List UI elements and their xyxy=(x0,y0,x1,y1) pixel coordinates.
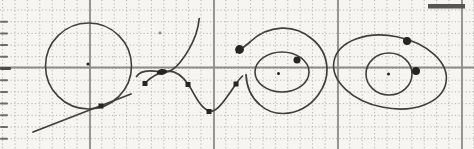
tangent-point-marker xyxy=(99,104,104,109)
figure-canvas xyxy=(0,0,474,149)
spiral-end-dot xyxy=(235,45,244,54)
large-circle-center-dot xyxy=(86,62,89,65)
scan-edge-dash xyxy=(0,56,8,58)
scan-edge-dash xyxy=(0,114,8,116)
inner-oval-center-dot xyxy=(277,72,280,75)
scan-edge-dash xyxy=(0,126,8,128)
scan-edge-dash xyxy=(0,103,8,105)
ellipse-top-dot xyxy=(403,37,411,45)
graph-paper-figure xyxy=(0,0,474,149)
spline-node-3 xyxy=(207,109,212,114)
scan-edge-dash xyxy=(0,67,11,70)
scan-edge-dash xyxy=(0,91,8,93)
scan-speck xyxy=(159,32,162,35)
ellipse-right-dot xyxy=(412,67,420,75)
scan-edge-dash xyxy=(0,138,8,140)
scan-edge-dash xyxy=(0,79,8,81)
ellipse-center-dot xyxy=(387,73,390,76)
spline-node-2 xyxy=(186,82,191,87)
scan-edge-dash xyxy=(0,44,8,46)
spline-node-4 xyxy=(234,82,239,87)
scan-top-bar xyxy=(428,4,465,9)
scan-edge-dash xyxy=(0,32,8,34)
scan-edge-dash xyxy=(0,21,8,23)
oval-region-dot xyxy=(294,57,301,64)
spline-node-1 xyxy=(143,81,148,86)
